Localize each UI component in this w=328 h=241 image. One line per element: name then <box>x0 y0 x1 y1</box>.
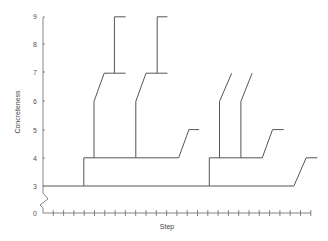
subtree-1-branch-b-top <box>157 17 167 73</box>
y-tick-3: 3 <box>33 183 37 190</box>
subtree-1-branch-a <box>94 73 126 158</box>
subtree-1-branch-a-top <box>114 17 125 73</box>
y-tick-5: 5 <box>33 127 37 134</box>
y-tick-6: 6 <box>33 98 37 105</box>
subtree-2-branch-b <box>241 73 252 158</box>
x-axis <box>43 210 311 216</box>
y-tick-4: 4 <box>33 155 37 162</box>
y-tick-7: 7 <box>33 69 37 76</box>
y-axis <box>40 17 48 213</box>
y-tick-labels: 9 8 7 6 5 4 3 0 <box>33 13 37 217</box>
subtree-1-branch-b <box>136 73 168 158</box>
y-tick-0: 0 <box>33 210 37 217</box>
subtree-1-stem <box>84 130 199 186</box>
y-axis-label: Concreteness <box>14 90 21 134</box>
axis-break-icon <box>40 193 48 213</box>
y-tick-8: 8 <box>33 41 37 48</box>
step-tree-series <box>43 17 317 186</box>
subtree-2-branch-a <box>220 73 232 158</box>
y-tick-9: 9 <box>33 13 37 20</box>
subtree-2-stem <box>209 130 283 186</box>
concreteness-step-chart: 9 8 7 6 5 4 3 0 Concreteness Step <box>0 0 328 241</box>
x-axis-label: Step <box>160 223 175 231</box>
